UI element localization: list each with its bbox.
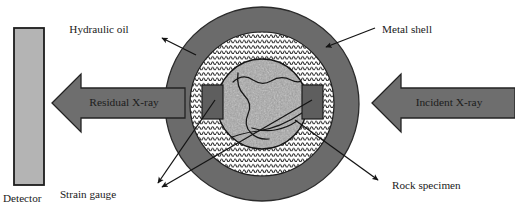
incident-xray-arrow: Incident X-ray (372, 74, 515, 132)
residual-xray-label: Residual X-ray (89, 96, 159, 108)
diagram-canvas: Detector Residual X-ray Incident X-ray H… (0, 0, 515, 219)
incident-xray-label: Incident X-ray (416, 96, 483, 108)
rock-specimen-label: Rock specimen (392, 179, 461, 191)
callout-hydraulic-oil: Hydraulic oil (69, 23, 196, 55)
residual-xray-arrow: Residual X-ray (52, 74, 185, 132)
detector-panel (14, 28, 44, 185)
detector-label: Detector (3, 192, 42, 204)
figure-root: Detector Residual X-ray Incident X-ray H… (0, 0, 515, 219)
strain-gauge-right (302, 85, 323, 119)
callout-metal-shell: Metal shell (326, 23, 432, 47)
pressure-cell-assembly (165, 7, 359, 201)
hydraulic-oil-label: Hydraulic oil (69, 23, 128, 35)
strain-gauge-label: Strain gauge (60, 188, 116, 200)
metal-shell-label: Metal shell (382, 23, 432, 35)
